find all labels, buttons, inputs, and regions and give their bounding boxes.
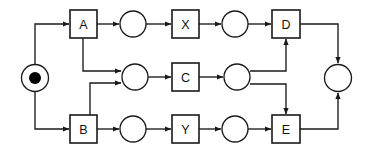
arc-place-to-e-down	[250, 84, 286, 114]
transition-b[interactable]: B	[70, 115, 97, 143]
start-place-token	[29, 72, 41, 84]
transition-a[interactable]: A	[70, 10, 97, 38]
place-after-x[interactable]	[222, 11, 248, 37]
transition-e-label: E	[282, 123, 291, 137]
place-after-c[interactable]	[224, 64, 250, 90]
place-before-c[interactable]	[122, 64, 148, 90]
place-after-a[interactable]	[120, 11, 146, 37]
place-after-b[interactable]	[120, 116, 146, 142]
petri-net-canvas: A X D C B Y	[0, 0, 367, 155]
transition-c-label: C	[181, 71, 190, 85]
transition-d[interactable]: D	[272, 10, 300, 38]
transition-d-label: D	[281, 18, 290, 32]
end-place[interactable]	[325, 65, 352, 92]
transition-c[interactable]: C	[172, 63, 199, 91]
arc-start-to-a	[35, 24, 69, 65]
transition-a-label: A	[79, 18, 88, 32]
arc-b-to-mid-place	[90, 83, 121, 115]
arc-place-to-d-up	[250, 39, 286, 71]
place-after-y[interactable]	[222, 116, 248, 142]
arc-e-to-end	[300, 93, 338, 129]
transition-b-label: B	[79, 123, 88, 137]
transition-e[interactable]: E	[272, 115, 300, 143]
transition-y[interactable]: Y	[172, 115, 199, 143]
arc-d-to-end	[300, 24, 338, 63]
transition-x[interactable]: X	[172, 10, 199, 38]
transition-y-label: Y	[181, 123, 190, 137]
arc-a-to-mid-place	[83, 38, 121, 71]
arc-start-to-b	[35, 92, 69, 130]
transition-x-label: X	[181, 18, 190, 32]
petri-net-diagram: A X D C B Y	[0, 0, 367, 155]
transition-layer: A X D C B Y	[70, 10, 300, 143]
